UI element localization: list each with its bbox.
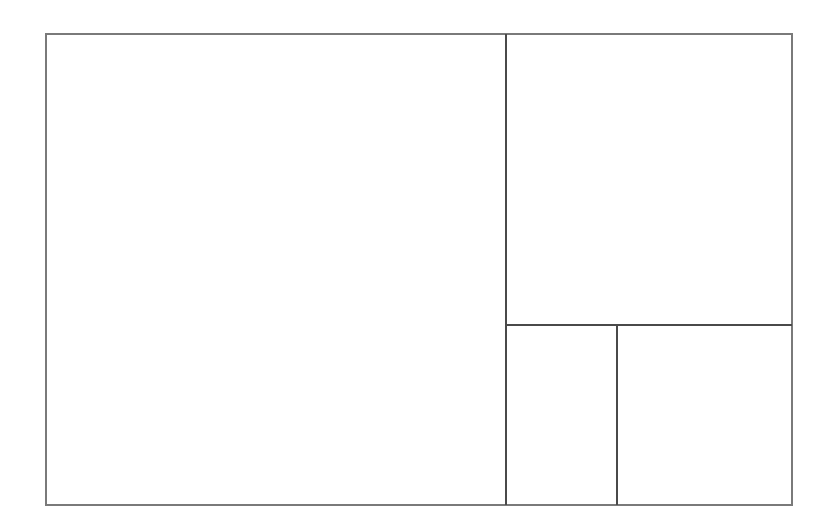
- vertical-divider-bottom: [616, 325, 618, 505]
- horizontal-divider-right: [506, 324, 792, 326]
- vertical-divider-main: [505, 34, 507, 505]
- outer-rectangle: [45, 33, 793, 506]
